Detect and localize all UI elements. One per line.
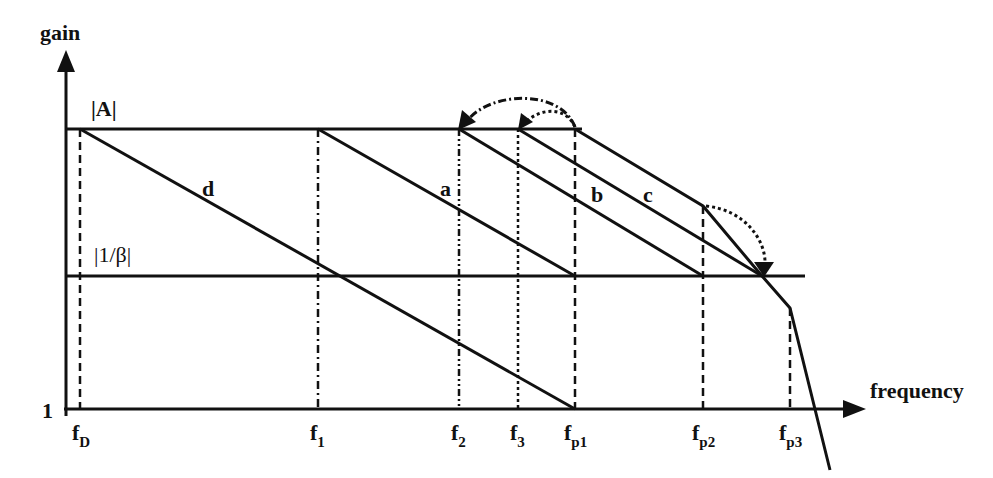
shift-arrow-to-f3 <box>526 111 575 127</box>
y-axis-label: gain <box>40 20 80 45</box>
svg-text:f2: f2 <box>451 420 466 450</box>
svg-text:fp2: fp2 <box>692 420 715 450</box>
freq-f1-sub: 1 <box>317 434 325 450</box>
feedback-gain-label: |1/β| <box>94 242 131 267</box>
y-origin-label: 1 <box>42 398 53 423</box>
curve-label-a: a <box>440 176 451 201</box>
arrowhead-f3-icon <box>518 113 533 130</box>
response-curves <box>80 129 830 470</box>
bode-diagram: gain frequency 1 |A| |1/β| d a b c fD f1… <box>0 0 993 478</box>
freq-fD-sub: D <box>79 434 90 450</box>
freq-fp1-sub: p1 <box>571 434 587 450</box>
freq-fp2-sub: p2 <box>699 434 715 450</box>
curve-b <box>459 129 703 276</box>
svg-text:fp1: fp1 <box>564 420 587 450</box>
y-axis <box>57 50 75 416</box>
x-axis <box>64 400 866 418</box>
freq-f2-sub: 2 <box>458 434 466 450</box>
shift-arrows <box>468 98 765 262</box>
curve-d <box>80 129 575 409</box>
y-axis-arrow-icon <box>57 50 75 72</box>
svg-text:fp3: fp3 <box>779 420 802 450</box>
svg-text:f3: f3 <box>510 420 525 450</box>
frequency-labels: fD f1 f2 f3 fp1 fp2 fp3 <box>72 420 802 450</box>
curve-label-b: b <box>591 182 603 207</box>
curve-c <box>518 129 762 276</box>
svg-text:fD: fD <box>72 420 90 450</box>
curve-label-c: c <box>643 182 653 207</box>
x-axis-arrow-icon <box>843 400 866 418</box>
freq-fp3-sub: p3 <box>786 434 802 450</box>
shift-arrow-pole <box>706 206 765 262</box>
x-axis-label: frequency <box>870 378 964 403</box>
frequency-markers <box>80 129 790 409</box>
curve-label-d: d <box>202 176 214 201</box>
open-loop-gain-label: |A| <box>91 96 117 121</box>
curve-a <box>318 129 575 276</box>
svg-text:f1: f1 <box>310 420 325 450</box>
freq-f3-sub: 3 <box>517 434 525 450</box>
